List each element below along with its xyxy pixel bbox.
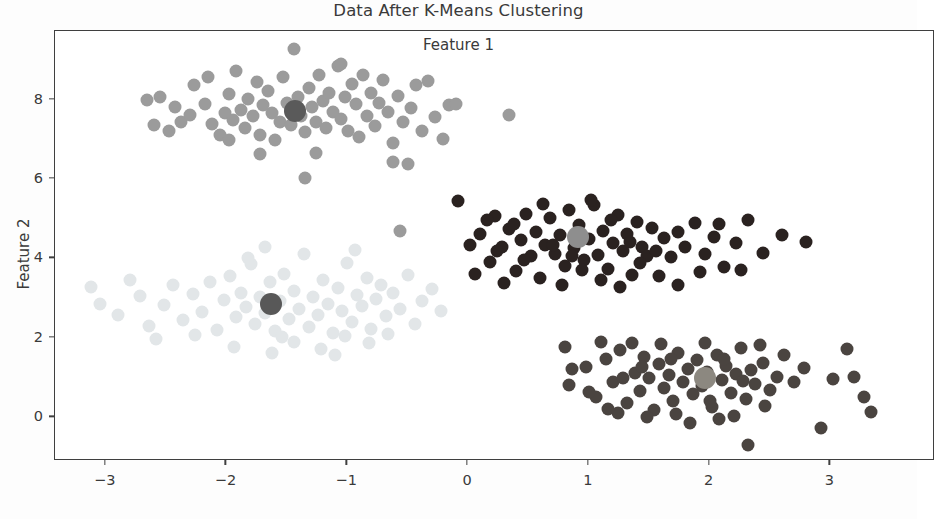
data-point: [664, 250, 677, 263]
data-point: [592, 249, 605, 262]
cluster-centroid: [284, 100, 306, 122]
data-point: [263, 276, 276, 289]
data-point: [394, 302, 407, 315]
data-point: [321, 297, 334, 310]
data-point: [422, 74, 435, 87]
data-point: [198, 97, 211, 110]
data-point: [391, 89, 404, 102]
data-point: [288, 335, 301, 348]
data-point: [196, 305, 209, 318]
data-point: [652, 269, 665, 282]
data-point: [582, 385, 595, 398]
data-point: [230, 311, 243, 324]
x-axis-label: Feature 1: [0, 36, 917, 54]
data-point: [565, 250, 578, 263]
data-point: [657, 381, 670, 394]
data-point: [349, 98, 362, 111]
data-point: [363, 337, 376, 350]
data-point: [684, 416, 697, 429]
data-point: [771, 370, 784, 383]
data-point: [679, 241, 692, 254]
data-point: [202, 70, 215, 83]
data-point: [718, 261, 731, 274]
data-point: [594, 273, 607, 286]
data-point: [848, 370, 861, 383]
data-point: [436, 133, 449, 146]
data-point: [323, 86, 336, 99]
data-point: [623, 235, 636, 248]
data-point: [556, 278, 569, 291]
data-point: [259, 240, 272, 253]
data-point: [727, 409, 740, 422]
x-tick-mark: [225, 460, 226, 465]
data-point: [140, 94, 153, 107]
data-point: [800, 235, 813, 248]
data-point: [313, 69, 326, 82]
data-point: [331, 281, 344, 294]
data-point: [563, 378, 576, 391]
data-point: [247, 110, 260, 123]
data-point: [218, 293, 231, 306]
data-point: [335, 112, 348, 125]
data-point: [507, 218, 520, 231]
data-point: [382, 106, 395, 119]
data-point: [369, 119, 382, 132]
data-point: [317, 273, 330, 286]
data-point: [693, 265, 706, 278]
data-point: [759, 400, 772, 413]
data-point: [718, 353, 731, 366]
data-point: [298, 126, 311, 139]
data-point: [222, 88, 235, 101]
data-point: [626, 269, 639, 282]
data-point: [224, 269, 237, 282]
data-point: [756, 356, 769, 369]
data-point: [734, 342, 747, 355]
data-point: [278, 267, 291, 280]
data-point: [858, 390, 871, 403]
data-point: [157, 299, 170, 312]
data-point: [635, 361, 648, 374]
data-point: [302, 81, 315, 94]
data-point: [503, 108, 516, 121]
data-point: [222, 134, 235, 147]
data-point: [633, 385, 646, 398]
data-point: [691, 354, 704, 367]
y-tick-label: 0: [34, 408, 43, 424]
data-point: [387, 155, 400, 168]
data-point: [288, 285, 301, 298]
data-point: [865, 405, 878, 418]
data-point: [597, 224, 610, 237]
x-axis: −3−2−10123: [0, 460, 917, 519]
data-point: [234, 286, 247, 299]
data-point: [655, 338, 668, 351]
data-point: [111, 308, 124, 321]
data-point: [184, 108, 197, 121]
data-point: [123, 273, 136, 286]
data-point: [186, 288, 199, 301]
data-point: [348, 243, 361, 256]
data-point: [276, 331, 289, 344]
data-point: [410, 79, 423, 92]
data-point: [85, 281, 98, 294]
data-point: [520, 208, 533, 221]
data-point: [703, 395, 716, 408]
data-point: [616, 372, 629, 385]
data-point: [133, 289, 146, 302]
data-point: [698, 247, 711, 260]
data-point: [826, 373, 839, 386]
data-point: [162, 125, 175, 138]
data-point: [346, 77, 359, 90]
x-tick-mark: [466, 460, 467, 465]
data-point: [534, 272, 547, 285]
data-point: [254, 129, 267, 142]
data-point: [261, 85, 274, 98]
data-point: [449, 98, 462, 111]
data-point: [396, 115, 409, 128]
data-point: [338, 330, 351, 343]
data-point: [283, 312, 296, 325]
data-point: [643, 372, 656, 385]
data-point: [664, 352, 677, 365]
data-point: [298, 171, 311, 184]
x-tick-mark: [708, 460, 709, 465]
